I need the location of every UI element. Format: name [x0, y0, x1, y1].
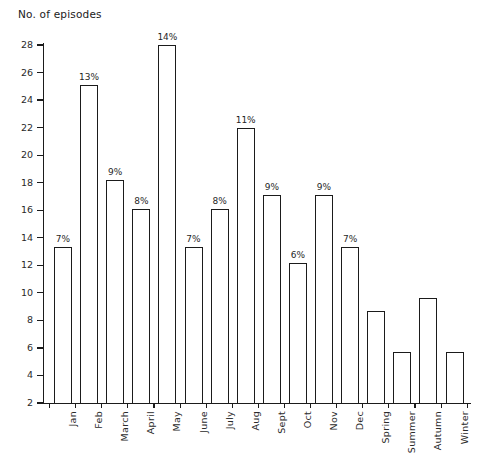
bar: [341, 247, 359, 404]
x-axis-category-label: Spring: [380, 411, 391, 443]
bar: [211, 209, 229, 404]
y-tick-label: 18: [11, 177, 33, 188]
x-tick-mark: [75, 403, 76, 408]
y-tick-mark: [37, 210, 43, 211]
y-tick-mark: [37, 320, 43, 321]
y-tick-label: 22: [11, 122, 33, 133]
y-tick-label: 8: [11, 314, 33, 325]
y-tick-label: 24: [11, 94, 33, 105]
x-axis-category-label: Oct: [302, 411, 313, 428]
x-tick-mark: [441, 403, 442, 408]
bar: [393, 352, 411, 404]
x-tick-mark: [467, 403, 468, 408]
y-tick-label: 14: [11, 232, 33, 243]
bar-value-label: 8%: [205, 196, 235, 206]
x-tick-mark: [362, 403, 363, 408]
bar-value-label: 7%: [179, 234, 209, 244]
x-axis-category-label: Aug: [250, 411, 261, 430]
x-tick-mark: [180, 403, 181, 408]
y-tick-mark: [37, 99, 43, 100]
bar: [54, 247, 72, 404]
x-tick-mark: [49, 403, 50, 408]
bar: [315, 195, 333, 404]
x-axis-category-label: March: [119, 411, 130, 441]
x-axis-category-label: June: [198, 411, 209, 433]
x-tick-mark: [153, 403, 154, 408]
y-tick-label: 2: [11, 397, 33, 408]
bar-value-label: 7%: [48, 234, 78, 244]
bar: [80, 85, 98, 404]
x-tick-mark: [258, 403, 259, 408]
y-tick-mark: [37, 402, 43, 403]
x-axis-category-label: Feb: [93, 411, 104, 429]
bar: [367, 311, 385, 404]
bar-value-label: 9%: [100, 167, 130, 177]
y-tick-label: 12: [11, 259, 33, 270]
y-tick-label: 6: [11, 342, 33, 353]
x-axis-category-label: Jan: [67, 411, 78, 427]
x-axis-category-label: Sept: [276, 411, 287, 434]
y-tick-label: 4: [11, 369, 33, 380]
bar-value-label: 7%: [335, 234, 365, 244]
x-tick-mark: [101, 403, 102, 408]
bar-value-label: 13%: [74, 72, 104, 82]
y-tick-label: 10: [11, 287, 33, 298]
x-axis-category-label: Nov: [328, 411, 339, 430]
y-tick-mark: [37, 127, 43, 128]
y-tick-mark: [37, 72, 43, 73]
bar: [132, 209, 150, 404]
y-tick-mark: [37, 182, 43, 183]
x-tick-mark: [414, 403, 415, 408]
x-tick-mark: [388, 403, 389, 408]
y-tick-mark: [37, 44, 43, 45]
x-axis-category-label: Winter: [459, 411, 470, 444]
x-axis-category-label: July: [224, 411, 235, 429]
y-tick-mark: [37, 155, 43, 156]
y-tick-mark: [37, 347, 43, 348]
x-tick-mark: [310, 403, 311, 408]
bar: [185, 247, 203, 404]
y-tick-label: 28: [11, 39, 33, 50]
y-tick-label: 16: [11, 204, 33, 215]
x-tick-mark: [284, 403, 285, 408]
y-tick-label: 26: [11, 67, 33, 78]
y-tick-label: 20: [11, 149, 33, 160]
y-tick-mark: [37, 292, 43, 293]
x-tick-mark: [232, 403, 233, 408]
x-tick-mark: [127, 403, 128, 408]
x-tick-mark: [206, 403, 207, 408]
y-axis-title: No. of episodes: [18, 8, 102, 20]
bar: [289, 263, 307, 404]
bar-value-label: 11%: [231, 115, 261, 125]
bar-value-label: 8%: [126, 196, 156, 206]
bar: [158, 45, 176, 404]
x-axis-category-label: May: [171, 411, 182, 432]
bar: [106, 180, 124, 404]
y-tick-mark: [37, 265, 43, 266]
x-axis-category-label: Summer: [406, 411, 417, 453]
bar-value-label: 9%: [309, 182, 339, 192]
y-tick-mark: [37, 375, 43, 376]
bar: [263, 195, 281, 404]
bar-value-label: 6%: [283, 250, 313, 260]
x-tick-mark: [336, 403, 337, 408]
bar: [419, 298, 437, 404]
x-axis-category-label: Dec: [354, 411, 365, 430]
bar: [446, 352, 464, 404]
bar: [237, 128, 255, 404]
bar-value-label: 14%: [152, 32, 182, 42]
y-tick-mark: [37, 237, 43, 238]
y-axis-line: [43, 43, 44, 404]
bar-value-label: 9%: [257, 182, 287, 192]
bar-chart: No. of episodes 246810121416182022242628…: [0, 0, 488, 453]
x-axis-category-label: Autumn: [432, 411, 443, 450]
x-axis-category-label: April: [145, 411, 156, 434]
